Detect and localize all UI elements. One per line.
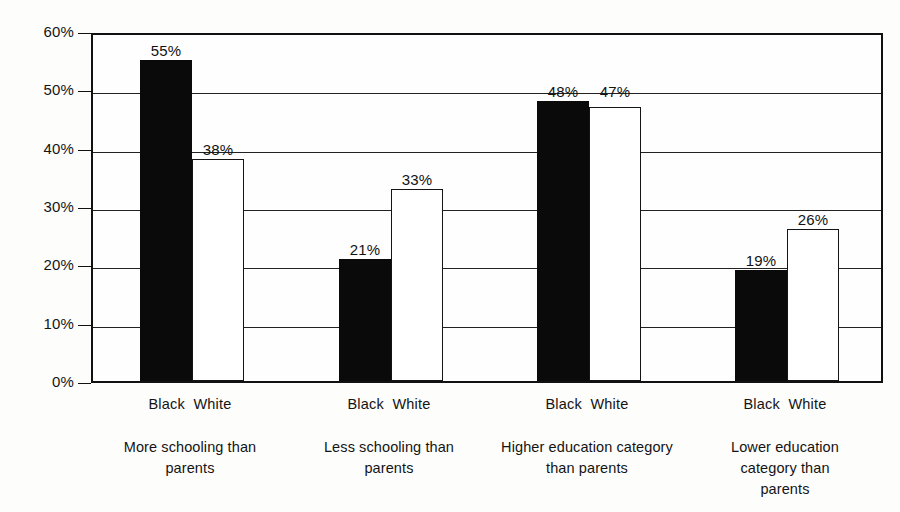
y-axis-label: 50% (16, 81, 74, 98)
group-caption-4: Lower educationcategory thanparents (685, 437, 885, 500)
group-caption-2: Less schooling thanparents (289, 437, 489, 479)
value-label-white-group-1: 38% (182, 141, 254, 158)
y-axis-tick (78, 383, 91, 384)
y-axis-tick (78, 325, 91, 326)
bar-white-group-3[interactable] (589, 107, 641, 381)
y-axis-tick (78, 266, 91, 267)
series-tick-black: Black (743, 396, 779, 412)
series-tick-labels-group-1: Black White (122, 396, 258, 412)
bar-black-group-2[interactable] (339, 259, 391, 382)
y-axis-label: 0% (16, 373, 74, 390)
series-tick-black: Black (148, 396, 184, 412)
value-label-black-group-4: 19% (725, 252, 797, 269)
group-caption-line: parents (685, 479, 885, 500)
group-caption-line: Higher education category (487, 437, 687, 458)
bar-black-group-3[interactable] (537, 101, 589, 381)
series-tick-labels-group-3: Black White (519, 396, 655, 412)
series-tick-white: White (590, 396, 628, 412)
value-label-black-group-2: 21% (329, 241, 401, 258)
y-axis-label: 20% (16, 256, 74, 273)
value-label-white-group-3: 47% (579, 83, 651, 100)
plot-area: 55%38%21%33%48%47%19%26% (91, 33, 883, 383)
bar-white-group-2[interactable] (391, 189, 443, 382)
y-axis-tick (78, 150, 91, 151)
series-tick-white: White (392, 396, 430, 412)
series-tick-black: Black (347, 396, 383, 412)
group-caption-line: Less schooling than (289, 437, 489, 458)
gridline (93, 93, 881, 94)
bar-black-group-1[interactable] (140, 60, 192, 381)
y-axis-label: 60% (16, 23, 74, 40)
chart-page: 60%50%40%30%20%10%0% 55%38%21%33%48%47%1… (0, 0, 900, 512)
series-tick-black: Black (545, 396, 581, 412)
group-caption-line: than parents (487, 458, 687, 479)
series-tick-white: White (788, 396, 826, 412)
bar-white-group-1[interactable] (192, 159, 244, 381)
value-label-white-group-2: 33% (381, 171, 453, 188)
y-axis-label: 30% (16, 198, 74, 215)
group-caption-line: category than (685, 458, 885, 479)
series-tick-labels-group-2: Black White (321, 396, 457, 412)
y-axis-label: 40% (16, 140, 74, 157)
group-caption-line: More schooling than (90, 437, 290, 458)
group-caption-3: Higher education categorythan parents (487, 437, 687, 479)
y-axis-tick (78, 91, 91, 92)
value-label-white-group-4: 26% (777, 211, 849, 228)
group-caption-line: parents (90, 458, 290, 479)
value-label-black-group-1: 55% (130, 42, 202, 59)
y-axis-tick (78, 33, 91, 34)
bar-black-group-4[interactable] (735, 270, 787, 381)
y-axis-label: 10% (16, 315, 74, 332)
group-caption-1: More schooling thanparents (90, 437, 290, 479)
y-axis-tick (78, 208, 91, 209)
series-tick-labels-group-4: Black White (717, 396, 853, 412)
group-caption-line: parents (289, 458, 489, 479)
series-tick-white: White (193, 396, 231, 412)
group-caption-line: Lower education (685, 437, 885, 458)
